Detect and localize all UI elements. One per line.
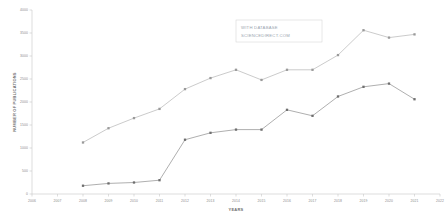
x-tick-label: 2010 <box>130 199 138 203</box>
data-point-marker <box>337 54 339 56</box>
data-point-marker <box>260 79 262 81</box>
x-tick-label: 2020 <box>385 199 393 203</box>
y-axis-title: NUMBER OF PUBLICATIONS <box>12 72 17 132</box>
data-point-marker <box>158 179 160 181</box>
x-tick-label: 2018 <box>334 199 342 203</box>
series-layer <box>82 29 416 187</box>
x-tick-label: 2022 <box>436 199 444 203</box>
data-point-marker <box>413 98 415 100</box>
y-tick-label: 3500 <box>20 31 28 35</box>
x-tick-label: 2017 <box>309 199 317 203</box>
x-axis-title: YEARS <box>229 207 244 212</box>
y-tick-label: 0 <box>26 192 28 196</box>
data-point-marker <box>184 88 186 90</box>
data-point-marker <box>184 139 186 141</box>
x-tick-label: 2006 <box>28 199 36 203</box>
x-tick-label: 2007 <box>54 199 62 203</box>
data-point-marker <box>158 108 160 110</box>
x-axis: 2006200720082009201020112012201320142015… <box>28 194 444 203</box>
data-point-marker <box>107 182 109 184</box>
y-tick-label: 2500 <box>20 77 28 81</box>
data-point-marker <box>133 181 135 183</box>
data-point-marker <box>286 69 288 71</box>
y-tick-label: 500 <box>22 169 28 173</box>
data-point-marker <box>311 115 313 117</box>
data-point-marker <box>362 29 364 31</box>
data-point-marker <box>235 69 237 71</box>
y-axis: 05001000150020002500300035004000 <box>20 8 32 196</box>
watermark-box <box>236 20 322 42</box>
data-point-marker <box>388 36 390 38</box>
line-chart-figure: 05001000150020002500300035004000 2006200… <box>0 0 448 222</box>
x-tick-label: 2019 <box>360 199 368 203</box>
data-point-marker <box>82 141 84 143</box>
data-point-marker <box>209 77 211 79</box>
watermark: WITH DATABASE SCIENCEDIRECT.COM <box>236 20 322 42</box>
chart-canvas: 05001000150020002500300035004000 2006200… <box>0 0 448 222</box>
y-tick-label: 4000 <box>20 8 28 12</box>
watermark-line-2: SCIENCEDIRECT.COM <box>241 33 290 38</box>
x-tick-label: 2009 <box>105 199 113 203</box>
data-point-marker <box>337 95 339 97</box>
watermark-line-1: WITH DATABASE <box>241 25 278 30</box>
y-tick-label: 2000 <box>20 100 28 104</box>
data-point-marker <box>286 109 288 111</box>
data-point-marker <box>235 128 237 130</box>
x-tick-label: 2015 <box>258 199 266 203</box>
y-tick-label: 1500 <box>20 123 28 127</box>
data-point-marker <box>362 86 364 88</box>
data-point-marker <box>311 69 313 71</box>
x-tick-label: 2016 <box>283 199 291 203</box>
series-line-lower-series <box>83 84 415 186</box>
data-point-marker <box>107 127 109 129</box>
data-point-marker <box>209 132 211 134</box>
x-tick-label: 2014 <box>232 199 240 203</box>
x-tick-label: 2021 <box>411 199 419 203</box>
x-tick-label: 2012 <box>181 199 189 203</box>
y-tick-label: 1000 <box>20 146 28 150</box>
data-point-marker <box>413 33 415 35</box>
data-point-marker <box>133 117 135 119</box>
y-tick-label: 3000 <box>20 54 28 58</box>
data-point-marker <box>260 128 262 130</box>
x-tick-label: 2013 <box>207 199 215 203</box>
data-point-marker <box>388 82 390 84</box>
x-tick-label: 2011 <box>156 199 164 203</box>
x-tick-label: 2008 <box>79 199 87 203</box>
data-point-marker <box>82 185 84 187</box>
